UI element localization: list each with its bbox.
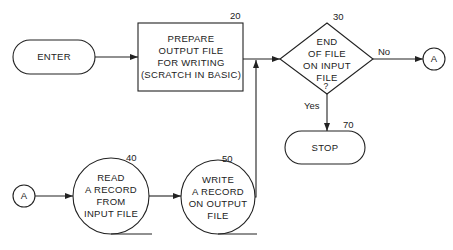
write-step-number: 50 <box>222 153 233 164</box>
stop-label: STOP <box>285 142 365 154</box>
write-label: WRITE A RECORD ON OUTPUT FILE <box>182 174 254 222</box>
yes-edge-label: Yes <box>304 100 320 111</box>
connector-a-in-label: A <box>14 190 34 202</box>
eof-question-mark: ? <box>316 82 336 91</box>
connector-a-out-label: A <box>424 53 444 65</box>
read-label: READ A RECORD FROM INPUT FILE <box>76 172 146 220</box>
enter-label: ENTER <box>13 51 95 63</box>
eof-step-number: 30 <box>333 11 344 22</box>
prepare-label: PREPARE OUTPUT FILE FOR WRITING (SCRATCH… <box>136 33 246 81</box>
read-step-number: 40 <box>126 152 137 163</box>
edge-write-loop <box>255 60 256 197</box>
no-edge-label: No <box>378 46 390 57</box>
eof-label: END OF FILE ON INPUT FILE <box>290 36 364 84</box>
flowchart: ENTER 20 PREPARE OUTPUT FILE FOR WRITING… <box>0 0 453 250</box>
prepare-step-number: 20 <box>230 10 241 21</box>
stop-step-number: 70 <box>343 119 354 130</box>
